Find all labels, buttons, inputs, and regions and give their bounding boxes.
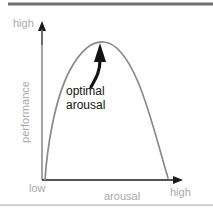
x-axis-title: arousal	[104, 190, 140, 202]
optimal-arousal-arrow-shaft	[91, 60, 100, 87]
x-axis-low-label: low	[29, 182, 46, 194]
bottom-divider	[0, 205, 213, 206]
performance-curve	[45, 42, 168, 180]
annotation-line-2: arousal	[66, 98, 105, 112]
x-axis-arrowhead	[173, 176, 183, 184]
optimal-arousal-arrowhead	[94, 43, 106, 62]
y-axis-high-label: high	[13, 17, 34, 29]
figure-canvas: high performance low arousal high optima…	[0, 0, 213, 213]
optimal-arousal-annotation: optimal arousal	[66, 84, 105, 112]
y-axis-title: performance	[19, 72, 31, 152]
top-bar	[8, 3, 213, 6]
annotation-line-1: optimal	[66, 84, 105, 98]
x-axis-high-label: high	[170, 186, 191, 198]
